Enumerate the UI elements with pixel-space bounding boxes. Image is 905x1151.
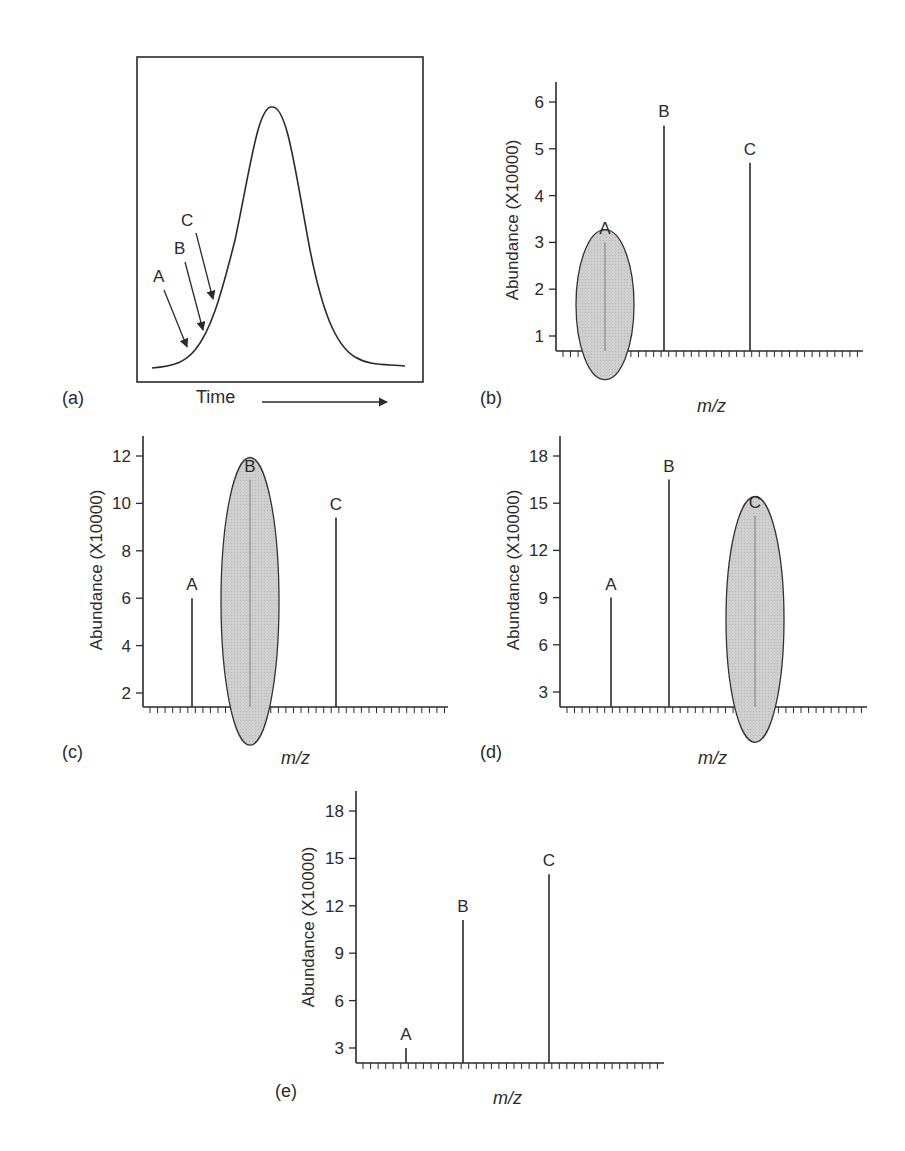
chromatogram-peak-curve	[152, 107, 405, 368]
panel-d-ylabel: Abundance (X10000)	[504, 490, 523, 651]
peak-label-c: C	[744, 140, 756, 159]
y-tick-label: 1	[535, 327, 544, 346]
y-tick-label: 2	[122, 684, 131, 703]
y-tick-label: 4	[122, 637, 131, 656]
arrow-a	[164, 290, 187, 347]
panel-e-spectrum: 369121518ABC	[325, 791, 664, 1069]
arrow-label-c: C	[181, 211, 193, 230]
y-tick-label: 18	[325, 802, 344, 821]
y-tick-label: 3	[335, 1039, 344, 1058]
y-tick-label: 9	[335, 944, 344, 963]
panel-b-spectrum: 123456ABC	[535, 82, 863, 380]
peak-label-a: A	[599, 219, 611, 238]
peak-label-a: A	[605, 575, 617, 594]
y-tick-label: 9	[539, 589, 548, 608]
panel-c-ylabel: Abundance (X10000)	[87, 490, 106, 651]
time-axis-label: Time	[196, 387, 235, 407]
y-tick-label: 12	[325, 897, 344, 916]
y-tick-label: 6	[535, 93, 544, 112]
arrow-c	[196, 233, 213, 299]
panel-e-ylabel: Abundance (X10000)	[299, 847, 318, 1008]
y-tick-label: 15	[529, 494, 548, 513]
y-tick-label: 6	[122, 589, 131, 608]
panel-c-xlabel: m/z	[281, 748, 310, 768]
peak-label-a: A	[400, 1025, 412, 1044]
y-tick-label: 15	[325, 849, 344, 868]
panel-e-xlabel: m/z	[493, 1088, 522, 1108]
peak-label-c: C	[330, 495, 342, 514]
panel-a-chromatogram: A B C (a) Time	[62, 57, 423, 408]
panel-b-xlabel: m/z	[697, 396, 726, 416]
y-tick-label: 5	[535, 140, 544, 159]
peak-label-b: B	[658, 102, 669, 121]
peak-label-b: B	[244, 457, 255, 476]
y-tick-label: 12	[112, 447, 131, 466]
peak-label-c: C	[749, 493, 761, 512]
figure-canvas: A B C (a) Time 123456ABC 24681012ABC 369…	[0, 0, 905, 1151]
chromatogram-frame	[137, 57, 423, 382]
y-tick-label: 10	[112, 494, 131, 513]
peak-label-b: B	[663, 457, 674, 476]
peak-label-a: A	[186, 575, 198, 594]
panel-b-label: (b)	[480, 388, 502, 408]
y-tick-label: 8	[122, 542, 131, 561]
panel-c-label: (c)	[62, 742, 83, 762]
y-tick-label: 12	[529, 541, 548, 560]
panel-e-label: (e)	[275, 1081, 297, 1101]
arrow-b	[185, 262, 203, 330]
arrow-label-a: A	[153, 267, 165, 286]
panel-d-spectrum: 369121518ABC	[529, 436, 867, 742]
y-tick-label: 6	[335, 992, 344, 1011]
panel-d-label: (d)	[480, 742, 502, 762]
y-tick-label: 18	[529, 447, 548, 466]
y-tick-label: 4	[535, 187, 544, 206]
peak-label-c: C	[543, 851, 555, 870]
panel-d-xlabel: m/z	[698, 748, 727, 768]
y-tick-label: 6	[539, 636, 548, 655]
panel-c-spectrum: 24681012ABC	[112, 436, 448, 745]
panel-b-ylabel: Abundance (X10000)	[503, 140, 522, 301]
panel-a-label: (a)	[62, 388, 84, 408]
y-tick-label: 3	[539, 683, 548, 702]
peak-label-b: B	[457, 897, 468, 916]
y-tick-label: 3	[535, 233, 544, 252]
y-tick-label: 2	[535, 280, 544, 299]
arrow-label-b: B	[174, 239, 185, 258]
